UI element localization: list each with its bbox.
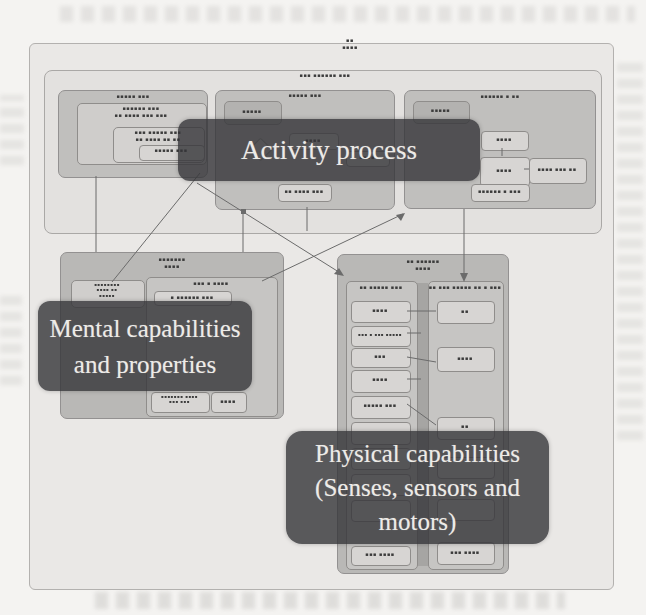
group-mental-item-1-label: ▪ ▪▪▪▪▪▪ ▪▪▪ <box>154 294 230 301</box>
callout-mental-capabilities: Mental capabilities and properties <box>38 301 252 391</box>
callout-physical-line3: motors) <box>286 505 549 539</box>
callout-mental-line1: Mental capabilities <box>38 311 252 347</box>
sense-box-10-label: ▪▪▪ ▪▪▪▪ <box>351 551 409 558</box>
outer-frame-tag: ▪▪ ▪▪▪▪ <box>320 37 380 51</box>
mental-corner-line1: ▪▪▪▪▪▪▪▪ <box>94 282 120 287</box>
inner-title-line1: ▪▪▪▪▪▪ ▪▪▪ <box>122 105 159 111</box>
motor-box-3-label: ▪▪ <box>437 423 493 430</box>
callout-physical-line2: (Senses, sensors and <box>286 471 549 505</box>
mental-corner-line3: ▪▪▪▪▪ <box>99 293 115 298</box>
group-top-right-title: ▪▪▪▪▪▪ ▪ ▪▪ <box>405 93 595 100</box>
group-mental-inner-title: ▪▪▪ ▪ ▪▪▪▪ <box>146 280 276 287</box>
mental-title-line2: ▪▪▪▪ <box>164 263 180 269</box>
group-top-right-bottom-label: ▪▪▪▪▪▪ ▪ ▪▪▪ <box>471 188 528 195</box>
sense-box-1-label: ▪▪▪▪ <box>351 307 409 314</box>
group-top-left-inner-title: ▪▪▪▪▪▪ ▪▪▪ ▪▪ ▪▪▪▪ ▪▪▪ ▪▪▪ <box>77 105 205 119</box>
mental-corner-line2: ▪▪▪▪ ▪▪ <box>96 287 117 292</box>
callout-physical-line1: Physical capabilities <box>286 437 549 471</box>
callout-activity-process: Activity process <box>178 119 480 181</box>
group-mental-bottom-label-1: ▪▪▪▪▪▪▪ ▪▪▪▪ ▪▪▪ ▪▪▪ <box>151 394 208 405</box>
physical-title-line1: ▪▪ ▪▪▪▪▪▪ <box>406 258 439 264</box>
group-top-right-box-3-label: ▪▪▪▪ ▪▪▪ ▪▪ <box>529 166 585 173</box>
bleed-through-bottom <box>95 592 565 609</box>
scanned-figure-page: ▪▪ ▪▪▪▪ ▪▪▪ ▪▪▪▪▪▪ ▪▪▪ ▪▪▪▪▪ ▪▪▪ ▪▪▪▪▪▪ … <box>0 0 646 615</box>
sense-box-4-label: ▪▪▪▪ <box>351 376 409 383</box>
inner-container-tag: ▪▪▪ ▪▪▪▪▪▪ ▪▪▪ <box>262 72 388 79</box>
group-top-middle-title: ▪▪▪▪▪ ▪▪▪ <box>216 92 394 99</box>
motor-box-2-label: ▪▪▪▪ <box>437 355 493 362</box>
physical-right-column-title: ▪▪ ▪▪▪ ▪▪▪▪▪ ▪▪ ▪ ▪▪▪ <box>428 284 502 291</box>
sub-label-line2: ▪▪ ▪▪▪▪ ▪▪ ▪▪ <box>135 136 180 142</box>
mental-b1-line1: ▪▪▪▪▪▪▪ ▪▪▪▪ <box>161 394 198 399</box>
inner-title-line2: ▪▪ ▪▪▪▪ ▪▪▪ ▪▪▪ <box>115 112 168 118</box>
bleed-through-right <box>617 60 643 440</box>
outer-frame-tag-line1: ▪▪ <box>346 37 354 43</box>
mental-title-line1: ▪▪▪▪▪▪▪ <box>158 256 185 262</box>
callout-physical-capabilities: Physical capabilities (Senses, sensors a… <box>286 431 549 544</box>
sense-box-2-label: ▪▪▪ ▪ ▪▪▪ ▪▪▪▪▪ <box>351 332 409 337</box>
sub-label-line1: ▪▪▪ ▪▪▪▪▪ ▪▪▪ <box>135 129 182 135</box>
group-mental-bottom-label-2: ▪▪▪▪ <box>211 398 245 405</box>
bleed-through-top <box>60 6 635 22</box>
callout-activity-text: Activity process <box>178 119 480 181</box>
group-top-left-title: ▪▪▪▪▪ ▪▪▪ <box>59 93 207 100</box>
motor-box-6-label: ▪▪▪ ▪▪▪▪ <box>437 549 493 556</box>
callout-mental-line2: and properties <box>38 347 252 383</box>
physical-title-line2: ▪▪▪▪ <box>415 265 431 271</box>
group-physical-title: ▪▪ ▪▪▪▪▪▪ ▪▪▪▪ <box>338 258 508 272</box>
group-top-middle-bottom-label: ▪▪ ▪▪▪▪ ▪▪▪ <box>278 188 330 195</box>
outer-frame-tag-line2: ▪▪▪▪ <box>342 44 358 50</box>
sense-box-3-label: ▪▪▪ <box>351 353 409 360</box>
mental-b1-line2: ▪▪▪ ▪▪▪ <box>169 399 190 404</box>
sense-box-5-label: ▪▪▪▪▪ ▪▪▪ <box>351 402 409 409</box>
group-top-right-corner-label: ▪▪▪▪▪ <box>413 107 468 114</box>
group-top-right-box-2-label: ▪▪▪▪ <box>480 167 528 174</box>
group-top-right-box-1-label: ▪▪▪▪ <box>481 136 527 143</box>
group-mental-title: ▪▪▪▪▪▪▪ ▪▪▪▪ <box>61 256 283 270</box>
group-top-middle-corner-label: ▪▪▪▪▪ <box>224 108 280 115</box>
motor-box-1-label: ▪▪ <box>437 308 493 315</box>
bleed-through-left-2 <box>0 295 22 385</box>
bleed-through-left-1 <box>0 95 24 165</box>
group-mental-corner-label: ▪▪▪▪▪▪▪▪ ▪▪▪▪ ▪▪ ▪▪▪▪▪ <box>71 282 143 298</box>
physical-left-column-title: ▪▪ ▪▪▪▪▪ ▪▪▪ <box>346 284 416 291</box>
